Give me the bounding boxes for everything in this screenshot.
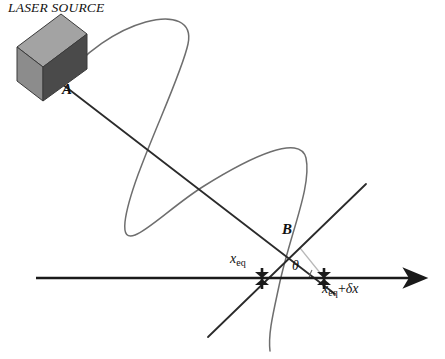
cantilever-mode-curve [60, 19, 307, 351]
diagram-canvas: LASER SOURCE A B θ xeq xeq+δx [0, 0, 445, 359]
x-eq-tick-label: xeq [230, 252, 246, 268]
x-eq-subscript: eq [236, 257, 246, 268]
laser-source-label: LASER SOURCE [8, 1, 105, 15]
diagram-svg [0, 0, 445, 359]
theta-angle-label: θ [292, 259, 299, 273]
point-a-label: A [62, 82, 72, 97]
delta-x-term: δx [346, 281, 359, 296]
laser-source-box [17, 14, 87, 101]
x-eq-dx-subscript: eq [328, 287, 338, 298]
plus-operator: + [338, 281, 346, 296]
x-eq-plus-delta-x-tick-label: xeq+δx [322, 282, 359, 298]
point-b-label: B [282, 222, 292, 237]
